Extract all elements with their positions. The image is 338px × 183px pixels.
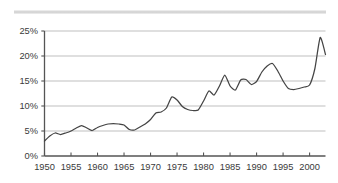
x-tick-label: 1960 — [87, 162, 108, 172]
x-tick-labels: 1950195519601965197019751980198519901995… — [34, 162, 320, 172]
x-tick-label: 1965 — [114, 162, 135, 172]
x-tick-label: 1980 — [193, 162, 214, 172]
x-tick-label: 1995 — [273, 162, 294, 172]
y-tick-label: 10% — [19, 101, 38, 111]
x-tick-label: 1985 — [220, 162, 241, 172]
x-tick-label: 1950 — [34, 162, 55, 172]
y-tick-labels: 0%5%10%15%20%25% — [19, 26, 38, 161]
y-tick-label: 5% — [25, 126, 38, 136]
data-series-line — [45, 37, 326, 141]
y-tick-label: 20% — [19, 51, 38, 61]
x-tick-label: 1975 — [167, 162, 188, 172]
y-tick-label: 25% — [19, 26, 38, 36]
x-axis — [45, 153, 326, 156]
line-chart: 0%5%10%15%20%25% 19501955196019651970197… — [0, 0, 338, 183]
y-tick-label: 0% — [25, 151, 38, 161]
x-tick-label: 1990 — [246, 162, 267, 172]
x-tick-label: 1955 — [61, 162, 82, 172]
y-tick-label: 15% — [19, 76, 38, 86]
chart-figure: 0%5%10%15%20%25% 19501955196019651970197… — [0, 0, 338, 183]
x-tick-label: 1970 — [140, 162, 161, 172]
x-tick-label: 2000 — [299, 162, 320, 172]
y-axis — [41, 31, 44, 156]
